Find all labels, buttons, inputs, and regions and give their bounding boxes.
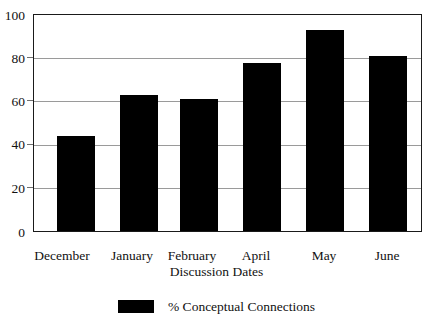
y-tick-label-20: 20 [0, 182, 25, 196]
y-tick-label-0: 0 [0, 226, 25, 240]
gridline-60 [34, 101, 421, 102]
legend-swatch-conceptual-connections [118, 300, 154, 313]
y-tick-label-60: 60 [0, 95, 25, 109]
x-tick-label-december: December [22, 249, 102, 263]
legend-label-conceptual-connections: % Conceptual Connections [168, 300, 315, 314]
chart-legend: % Conceptual Connections [0, 300, 433, 314]
bar-april [243, 63, 281, 231]
x-tick-label-february: February [152, 249, 232, 263]
y-tick-label-80: 80 [0, 52, 25, 66]
gridline-80 [34, 58, 421, 59]
y-tick-label-100: 100 [0, 9, 25, 23]
y-tick-label-40: 40 [0, 138, 25, 152]
bar-chart: 100 80 60 40 20 0 December January Febru… [0, 0, 433, 323]
bar-june [369, 56, 407, 231]
bar-december [57, 136, 95, 231]
x-tick-label-june: June [352, 249, 422, 263]
x-tick-label-april: April [221, 249, 291, 263]
bar-february [180, 99, 218, 231]
bar-january [120, 95, 158, 231]
plot-area [33, 14, 422, 232]
bar-may [306, 30, 344, 231]
x-tick-label-may: May [289, 249, 359, 263]
x-axis-title: Discussion Dates [0, 265, 433, 279]
